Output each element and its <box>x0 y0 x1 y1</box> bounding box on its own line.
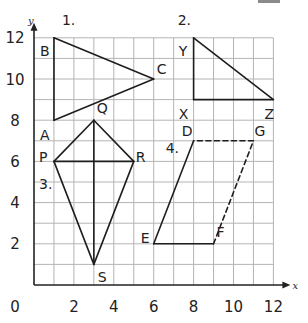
coordinate-grid-diagram: xy024681012246810121.2.3.4.BACYXZQPRSDGE… <box>0 0 308 323</box>
x-tick-label: 10 <box>224 298 243 316</box>
vertex-label-B: B <box>40 43 50 59</box>
vertex-label-C: C <box>157 61 167 77</box>
y-tick-label: 8 <box>10 112 20 130</box>
vertex-label-X: X <box>179 106 189 122</box>
y-tick-label: 6 <box>10 153 20 171</box>
figure-number-label: 2. <box>178 12 191 28</box>
vertex-label-S: S <box>98 269 107 285</box>
x-tick-label: 4 <box>109 298 119 316</box>
x-tick-label: 6 <box>149 298 159 316</box>
origin-label: 0 <box>10 298 20 316</box>
x-axis-label: x <box>292 280 298 291</box>
figure-kite-3 <box>54 120 134 264</box>
vertex-label-Y: Y <box>178 43 188 59</box>
y-axis-label: y <box>27 15 34 26</box>
y-tick-label: 4 <box>10 194 20 212</box>
x-axis-arrow-icon <box>282 282 290 289</box>
vertex-label-D: D <box>182 123 193 139</box>
figure-number-label: 1. <box>62 12 75 28</box>
vertex-label-E: E <box>141 230 150 246</box>
y-tick-label: 10 <box>5 71 24 89</box>
y-tick-label: 12 <box>5 29 24 47</box>
vertex-label-A: A <box>40 127 50 143</box>
figure-number-label: 3. <box>39 176 52 192</box>
vertex-label-R: R <box>136 149 146 165</box>
x-tick-label: 12 <box>264 298 283 316</box>
vertex-label-F: F <box>217 224 225 240</box>
figure-parallelogram-4 <box>154 141 254 244</box>
figure-number-label: 4. <box>166 140 179 156</box>
y-tick-label: 2 <box>10 235 20 253</box>
vertex-label-P: P <box>39 149 47 165</box>
vertex-label-Z: Z <box>264 106 274 122</box>
vertex-label-Q: Q <box>97 100 108 116</box>
x-tick-label: 2 <box>69 298 79 316</box>
x-tick-label: 8 <box>189 298 199 316</box>
vertex-label-G: G <box>254 123 265 139</box>
